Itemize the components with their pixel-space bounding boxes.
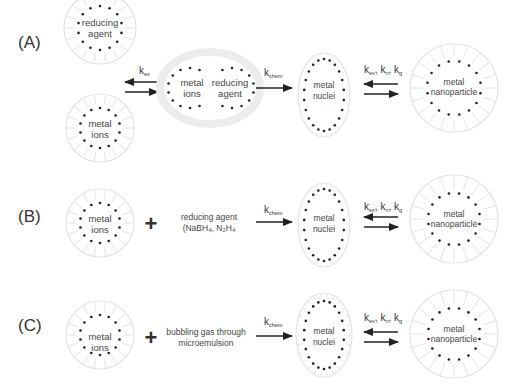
head-group-dot (467, 196, 470, 199)
micelle-label: metal (314, 326, 335, 336)
head-group-dot (312, 193, 315, 196)
head-group-dot (179, 105, 182, 108)
micelle-label: ions (91, 224, 109, 235)
head-group-dot (475, 102, 478, 105)
head-group-dot (342, 229, 345, 232)
head-group-dot (334, 193, 337, 196)
micelle-label: metal (444, 77, 465, 87)
head-group-dot (81, 13, 84, 16)
micelle-label: metal (314, 213, 335, 223)
row-a: (A) reducing agent metal ions kex metal … (18, 0, 498, 162)
micelle-label: agent (88, 28, 112, 39)
rate-constants-growth: kex, kn, kg (364, 201, 402, 213)
head-group-dot (118, 122, 121, 125)
head-group-dot (448, 243, 451, 246)
head-group-dot (118, 131, 121, 134)
rate-constant-kex: kex (139, 65, 150, 77)
head-group-dot (474, 232, 477, 235)
head-group-dot (312, 63, 315, 66)
head-group-dot (79, 122, 82, 125)
head-group-dot (334, 63, 337, 66)
head-group-dot (467, 311, 470, 314)
head-group-dot (189, 67, 192, 70)
head-group-dot (303, 339, 306, 342)
micelle-label: metal (180, 77, 203, 88)
head-group-dot (478, 223, 481, 226)
head-group-dot (308, 311, 311, 314)
head-group-dot (475, 72, 478, 75)
micelle-label: metal (88, 118, 111, 129)
head-group-dot (438, 109, 441, 112)
head-group-dot (431, 232, 434, 235)
head-group-dot (458, 243, 461, 246)
head-group-dot (189, 107, 192, 110)
head-group-dot (240, 105, 243, 108)
head-group-dot (334, 124, 337, 127)
head-group-dot (430, 72, 433, 75)
micelle-label: ions (91, 129, 109, 140)
head-group-dot (317, 366, 320, 369)
head-group-dot (114, 139, 117, 142)
head-group-dot (323, 58, 326, 61)
head-group-dot (448, 192, 451, 195)
head-group-dot (305, 109, 308, 112)
head-group-dot (341, 320, 344, 323)
head-group-dot (342, 329, 345, 332)
head-group-dot (252, 82, 255, 85)
head-group-dot (431, 318, 434, 321)
reagent-label: reducing agent (181, 212, 238, 222)
head-group-dot (116, 13, 119, 16)
head-group-dot (323, 188, 326, 191)
head-group-dot (317, 301, 320, 304)
head-group-dot (114, 114, 117, 117)
head-group-dot (90, 204, 93, 207)
head-group-dot (83, 139, 86, 142)
head-group-dot (303, 219, 306, 222)
head-group-dot (334, 254, 337, 257)
head-group-dot (303, 229, 306, 232)
head-group-dot (89, 47, 92, 50)
head-group-dot (83, 234, 86, 237)
head-group-dot (427, 213, 430, 216)
head-group-dot (468, 109, 471, 112)
head-group-dot (431, 203, 434, 206)
micelle-metal-nuclei: metal nuclei (298, 53, 350, 137)
head-group-dot (328, 258, 331, 261)
head-group-dot (427, 338, 430, 341)
head-group-dot (305, 320, 308, 323)
head-group-dot (458, 358, 461, 361)
head-group-dot (90, 109, 93, 112)
head-group-dot (334, 305, 337, 308)
head-group-dot (328, 189, 331, 192)
micelle-label: metal (88, 213, 111, 224)
head-group-dot (79, 217, 82, 220)
head-group-dot (426, 92, 429, 95)
head-group-dot (107, 316, 110, 319)
micelle-label: nanoparticle (431, 219, 478, 229)
head-group-dot (467, 354, 470, 357)
head-group-dot (478, 338, 481, 341)
head-group-dot (328, 59, 331, 62)
head-group-dot (317, 59, 320, 62)
head-group-dot (305, 79, 308, 82)
head-group-dot (79, 338, 82, 341)
head-group-dot (323, 130, 326, 133)
head-group-dot (317, 189, 320, 192)
head-group-dot (328, 366, 331, 369)
head-group-dot (341, 79, 344, 82)
micelle-metal-ions: metal ions (66, 301, 134, 369)
head-group-dot (338, 70, 341, 73)
head-group-dot (99, 107, 102, 110)
micelle-metal-nuclei: metal nuclei (296, 293, 352, 377)
head-group-dot (323, 260, 326, 263)
head-group-dot (338, 200, 341, 203)
head-group-dot (108, 47, 111, 50)
head-group-dot (171, 74, 174, 77)
head-group-dot (458, 192, 461, 195)
head-group-dot (317, 128, 320, 131)
head-group-dot (341, 239, 344, 242)
head-group-dot (338, 247, 341, 250)
head-group-dot (99, 202, 102, 205)
head-group-dot (338, 356, 341, 359)
head-group-dot (328, 128, 331, 131)
